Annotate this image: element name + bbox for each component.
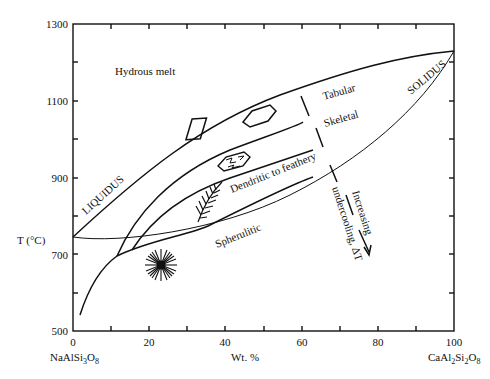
svg-text:900: 900 — [52, 172, 69, 184]
svg-text:60: 60 — [297, 336, 309, 348]
svg-text:500: 500 — [52, 325, 69, 337]
liquidus-curve — [73, 51, 454, 237]
feathery-crystal-icon — [196, 182, 222, 222]
x-tick-labels: 0 20 40 60 80 100 — [70, 336, 463, 348]
label-skeletal: Skeletal — [322, 108, 359, 129]
svg-text:80: 80 — [373, 336, 385, 348]
label-tabular: Tabular — [321, 81, 357, 102]
x-axis-label: Wt. % — [231, 351, 259, 363]
y-tick-labels: 1300 1100 900 700 500 — [46, 18, 69, 337]
svg-text:0: 0 — [70, 336, 76, 348]
spherulitic-lower-curve — [80, 256, 117, 315]
svg-text:20: 20 — [144, 336, 156, 348]
x-right-endmember: CaAl2Si2O8 — [428, 351, 480, 366]
y-axis-label: T (°C) — [17, 234, 46, 247]
tabular-crystal-icon — [182, 112, 211, 146]
label-spherulitic: Spherulitic — [213, 221, 262, 250]
svg-text:1100: 1100 — [46, 95, 68, 107]
label-hydrous-melt: Hydrous melt — [115, 65, 175, 77]
svg-text:1300: 1300 — [46, 18, 69, 30]
x-left-endmember: NaAlSi3O8 — [50, 351, 99, 366]
dendritic-spherulitic-divider — [330, 165, 337, 182]
svg-text:100: 100 — [446, 336, 463, 348]
tabular-skeletal-divider — [301, 96, 309, 116]
svg-text:700: 700 — [52, 249, 69, 261]
skeletal-crystal-icon — [218, 152, 250, 171]
solidus-curve — [73, 51, 454, 239]
svg-text:40: 40 — [220, 336, 232, 348]
skeletal-dendritic-divider — [316, 128, 323, 147]
phase-diagram: 1300 1100 900 700 500 0 20 40 60 80 100 … — [0, 0, 490, 379]
spherulite-crystal-icon — [145, 249, 177, 281]
